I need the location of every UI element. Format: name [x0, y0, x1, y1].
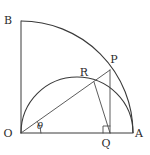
label-point-q: Q [101, 137, 110, 150]
label-point-a: A [134, 127, 144, 140]
label-angle-theta: θ [37, 120, 43, 131]
label-point-b: B [4, 14, 12, 27]
geometry-canvas: O A B P Q R θ [0, 0, 150, 155]
geometry-figure: O A B P Q R θ [0, 0, 150, 155]
segment-rq [94, 82, 110, 133]
label-point-r: R [80, 66, 89, 79]
segment-op [21, 70, 110, 133]
label-point-o: O [3, 127, 12, 140]
label-point-p: P [110, 53, 118, 66]
